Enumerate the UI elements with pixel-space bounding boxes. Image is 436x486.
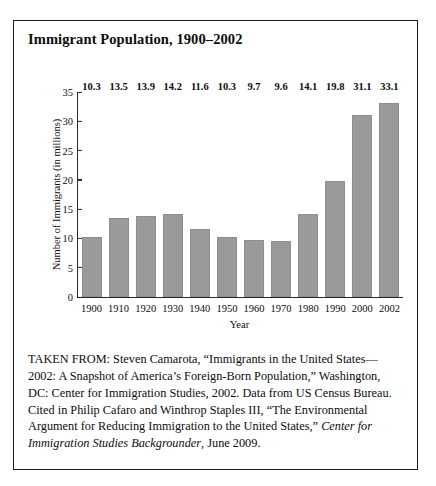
- bar-value-label: 19.8: [326, 81, 344, 92]
- y-axis-tick-label: 0: [68, 292, 78, 303]
- bar[interactable]: 10.3: [82, 237, 102, 297]
- x-axis-title: Year: [77, 319, 402, 330]
- bar-value-label: 10.3: [218, 81, 236, 92]
- bar-group: 13.91920: [133, 92, 159, 297]
- bar[interactable]: 9.6: [271, 241, 291, 297]
- y-axis-title: Number of Immigrants (in millions): [51, 90, 62, 300]
- plot-area: 05101520253035 10.3190013.5191013.919201…: [77, 92, 403, 298]
- bar-value-label: 14.1: [299, 81, 317, 92]
- bar[interactable]: 10.3: [217, 237, 237, 297]
- x-axis-tick-label: 1950: [216, 297, 237, 314]
- bar[interactable]: 9.7: [244, 240, 264, 297]
- bar[interactable]: 13.5: [109, 218, 129, 297]
- bar[interactable]: 31.1: [352, 115, 372, 297]
- x-axis-tick-label: 1900: [81, 297, 102, 314]
- bar-value-label: 9.6: [275, 81, 288, 92]
- bar-group: 14.21930: [160, 92, 186, 297]
- bar-value-label: 13.5: [109, 81, 127, 92]
- x-axis-tick-label: 2000: [352, 297, 373, 314]
- bar-group: 13.51910: [106, 92, 132, 297]
- bar-value-label: 13.9: [137, 81, 155, 92]
- bar-value-label: 33.1: [380, 81, 398, 92]
- bar-group: 33.12002: [376, 92, 402, 297]
- x-axis-tick-label: 1990: [325, 297, 346, 314]
- bar-value-label: 9.7: [247, 81, 260, 92]
- y-axis-tick-label: 20: [63, 174, 79, 185]
- y-axis-tick-label: 25: [63, 145, 79, 156]
- y-axis-tick-label: 35: [63, 87, 79, 98]
- x-axis-tick-label: 1930: [162, 297, 183, 314]
- x-axis-tick-label: 1960: [244, 297, 265, 314]
- y-axis-tick-label: 15: [63, 204, 79, 215]
- x-axis-tick-label: 1910: [108, 297, 129, 314]
- bar-group: 9.61970: [268, 92, 294, 297]
- bar[interactable]: 14.2: [163, 214, 183, 297]
- y-axis-tick-label: 10: [63, 233, 79, 244]
- bar-value-label: 11.6: [191, 81, 209, 92]
- source-caption: TAKEN FROM: Steven Camarota, “Immigrants…: [28, 351, 403, 452]
- chart-area: Number of Immigrants (in millions) 05101…: [14, 21, 417, 341]
- bar-group: 9.71960: [241, 92, 267, 297]
- y-axis-tick-label: 5: [68, 262, 78, 273]
- x-axis-tick-label: 2002: [379, 297, 400, 314]
- y-axis-tick-label: 30: [63, 116, 79, 127]
- bar-value-label: 14.2: [164, 81, 182, 92]
- x-axis-tick-label: 1940: [189, 297, 210, 314]
- bar[interactable]: 33.1: [379, 103, 399, 297]
- bar-group: 19.81990: [322, 92, 348, 297]
- x-axis-tick-label: 1970: [271, 297, 292, 314]
- bar-group: 31.12000: [349, 92, 375, 297]
- bar[interactable]: 14.1: [298, 214, 318, 297]
- bar-group: 10.31900: [79, 92, 105, 297]
- caption-text-after: , June 2009.: [201, 436, 260, 450]
- bar-group: 11.61940: [187, 92, 213, 297]
- bar[interactable]: 13.9: [136, 216, 156, 297]
- figure-container: Immigrant Population, 1900–2002 Number o…: [13, 20, 418, 470]
- bar-group: 14.11980: [295, 92, 321, 297]
- x-axis-tick-label: 1920: [135, 297, 156, 314]
- bar[interactable]: 11.6: [190, 229, 210, 297]
- bar[interactable]: 19.8: [325, 181, 345, 297]
- bar-series: 10.3190013.5191013.9192014.2193011.61940…: [78, 92, 403, 297]
- bar-value-label: 31.1: [353, 81, 371, 92]
- bar-group: 10.31950: [214, 92, 240, 297]
- x-axis-tick-label: 1980: [298, 297, 319, 314]
- bar-value-label: 10.3: [82, 81, 100, 92]
